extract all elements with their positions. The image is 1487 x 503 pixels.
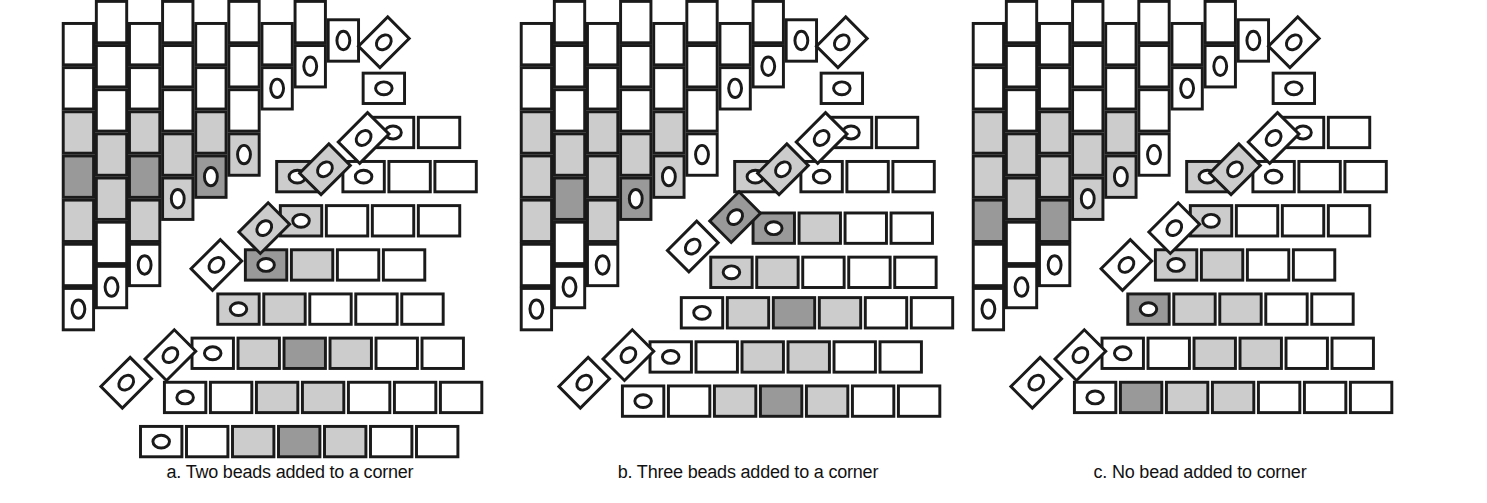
bead [1006,90,1036,131]
bead-body [1139,1,1169,42]
bead [129,112,159,153]
bead [1073,1,1103,42]
bead [63,112,93,153]
bead-body [1073,134,1103,175]
bead [621,46,651,87]
bead-hole-icon [1148,145,1161,163]
bead-body [973,68,1003,109]
bead [371,426,412,456]
bead-hole-icon [629,190,642,208]
bead-svg-a [60,0,520,460]
bead [1139,90,1169,131]
bead [773,298,814,328]
bead-body [96,222,126,263]
bead [621,178,651,219]
bead-body [279,426,320,456]
bead-body [973,112,1003,153]
figure-canvas: a. Two beads added to a corner b. Three … [0,0,1487,503]
bead [229,46,259,87]
bead [1286,338,1327,368]
bead [141,426,182,456]
bead-body [849,257,890,287]
bead-body [187,426,228,456]
bead-body [687,1,717,42]
bead [554,266,584,307]
bead [845,213,886,243]
bead-body [803,257,844,287]
bead-body [129,112,159,153]
bead [603,330,654,381]
bead [1039,23,1069,64]
bead [129,68,159,109]
bead [164,382,205,412]
bead-body [440,382,481,412]
bead [1212,382,1253,412]
bead [163,90,193,131]
bead-hole-icon [293,214,310,227]
bead-hole-icon [1168,259,1185,272]
bead [145,330,196,381]
bead-hole-icon [563,278,576,296]
bead-body [973,156,1003,197]
bead-body [1166,382,1207,412]
bead [418,206,459,236]
bead [389,161,430,191]
bead-body [337,250,378,280]
bead [191,240,242,291]
bead-body [372,206,413,236]
bead [1106,23,1136,64]
bead-hole-icon [694,306,711,319]
bead-body [376,338,417,368]
bead [1006,134,1036,175]
bead [196,23,226,64]
bead [786,20,816,61]
bead [245,250,286,280]
bead [418,117,459,147]
bead [880,342,921,372]
bead [668,386,709,416]
bead-hole-icon [1048,256,1061,274]
bead-hole-icon [1015,278,1028,296]
bead-body [1006,1,1036,42]
bead-body [1073,90,1103,131]
bead-body [621,90,651,131]
bead [742,342,783,372]
bead-body [402,294,443,324]
bead [1139,1,1169,42]
bead-body [587,68,617,109]
bead-body [418,206,459,236]
bead-body [1266,294,1307,324]
bead-body [554,1,584,42]
bead [753,1,783,42]
bead [1293,250,1334,280]
bead [806,386,847,416]
bead-body [210,382,251,412]
bead-body [1299,161,1340,191]
bead [621,90,651,131]
bead [1166,382,1207,412]
bead [554,134,584,175]
bead-body [418,117,459,147]
bead [521,68,551,109]
bead-hole-icon [230,303,247,316]
bead-body [371,426,412,456]
bead-body [521,200,551,241]
bead [1258,382,1299,412]
bead-hole-icon [238,145,251,163]
bead [218,294,259,324]
bead [1220,294,1261,324]
bead [348,382,389,412]
bead-body [238,338,279,368]
bead-hole-icon [696,145,709,163]
bead [129,200,159,241]
bead-body [63,200,93,241]
bead [1345,161,1386,191]
bead-body [788,342,829,372]
bead-body [1006,178,1036,219]
bead [1172,68,1202,109]
bead-body [129,68,159,109]
bead [63,200,93,241]
bead-diagram-a [60,0,520,460]
bead-hole-icon [729,79,742,97]
bead [720,23,750,64]
